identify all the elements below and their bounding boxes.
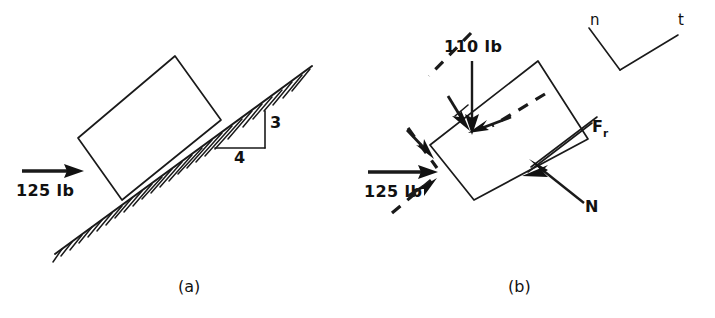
friction-force-subscript-b: r xyxy=(603,127,609,139)
figure-background xyxy=(0,0,715,318)
friction-force-label-b: F xyxy=(592,117,603,136)
slope-rise-label-a: 3 xyxy=(270,113,282,132)
figure-root: 125 lb 3 4 (a) n t 110 lb xyxy=(0,0,715,318)
panel-b-caption: (b) xyxy=(508,277,531,296)
mechanics-figure: 125 lb 3 4 (a) n t 110 lb xyxy=(0,0,715,318)
panel-a-caption: (a) xyxy=(178,277,200,296)
slope-run-label-a: 4 xyxy=(234,148,246,167)
normal-force-label-b: N xyxy=(585,197,599,216)
axis-normal-label: n xyxy=(590,11,600,29)
applied-force-label-a: 125 lb xyxy=(16,181,74,200)
axis-tangential-label: t xyxy=(678,11,684,29)
